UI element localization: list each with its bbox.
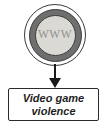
www-label: WWW [38,29,72,41]
box-text-line2: violence [31,105,75,118]
arrowhead-down-icon [49,78,61,88]
www-globe-icon: WWW [24,4,86,66]
globe-ring: WWW [29,9,82,62]
globe-inner-disc: WWW [35,15,76,56]
video-game-violence-box: Video game violence [8,88,99,121]
diagram-canvas: WWW Video game violence [0,0,106,128]
connector-line [54,64,56,79]
box-text-line1: Video game [23,92,84,105]
